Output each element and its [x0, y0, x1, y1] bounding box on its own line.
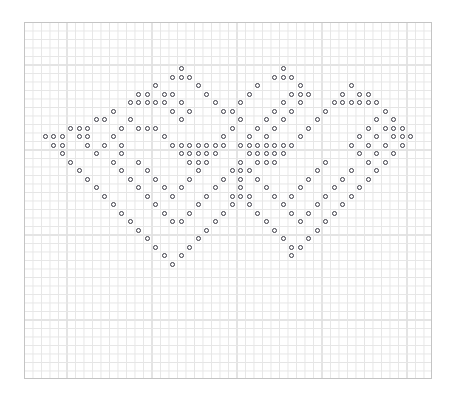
stitch-symbol [221, 109, 226, 114]
stitch-symbol [136, 228, 141, 233]
stitch-symbol [221, 211, 226, 216]
stitch-symbol [400, 134, 405, 139]
stitch-symbol [221, 134, 226, 139]
stitch-symbol [374, 134, 379, 139]
stitch-symbol [383, 126, 388, 131]
stitch-symbol [213, 219, 218, 224]
stitch-symbol [289, 109, 294, 114]
stitch-symbol [357, 134, 362, 139]
stitch-symbol [179, 117, 184, 122]
stitch-symbol-layer [24, 22, 432, 379]
stitch-symbol [281, 236, 286, 241]
stitch-symbol [221, 143, 226, 148]
stitch-symbol [349, 83, 354, 88]
stitch-symbol [213, 100, 218, 105]
stitch-symbol [289, 75, 294, 80]
stitch-symbol [119, 126, 124, 131]
stitch-symbol [238, 160, 243, 165]
stitch-symbol [102, 143, 107, 148]
stitch-symbol [111, 202, 116, 207]
stitch-symbol [255, 160, 260, 165]
stitch-symbol [85, 143, 90, 148]
stitch-symbol [179, 151, 184, 156]
stitch-symbol [383, 160, 388, 165]
stitch-symbol [349, 143, 354, 148]
stitch-symbol [102, 117, 107, 122]
stitch-symbol [332, 185, 337, 190]
stitch-symbol [247, 134, 252, 139]
stitch-symbol [349, 194, 354, 199]
stitch-symbol [238, 185, 243, 190]
stitch-symbol [264, 185, 269, 190]
stitch-symbol [170, 109, 175, 114]
stitch-symbol [153, 177, 158, 182]
stitch-symbol [298, 134, 303, 139]
stitch-symbol [187, 160, 192, 165]
stitch-symbol [187, 211, 192, 216]
stitch-symbol [128, 100, 133, 105]
stitch-symbol [179, 219, 184, 224]
stitch-symbol [77, 168, 82, 173]
stitch-symbol [128, 177, 133, 182]
stitch-symbol [204, 92, 209, 97]
stitch-symbol [255, 143, 260, 148]
stitch-symbol [238, 143, 243, 148]
stitch-symbol [230, 202, 235, 207]
stitch-symbol [187, 143, 192, 148]
stitch-symbol [281, 117, 286, 122]
stitch-symbol [196, 143, 201, 148]
stitch-symbol [204, 143, 209, 148]
stitch-symbol [153, 100, 158, 105]
stitch-symbol [77, 126, 82, 131]
stitch-symbol [247, 202, 252, 207]
stitch-symbol [204, 151, 209, 156]
stitch-symbol [289, 245, 294, 250]
stitch-symbol [145, 168, 150, 173]
stitch-symbol [281, 143, 286, 148]
stitch-symbol [289, 194, 294, 199]
stitch-symbol [179, 143, 184, 148]
stitch-symbol [357, 92, 362, 97]
stitch-symbol [170, 75, 175, 80]
stitch-symbol [264, 219, 269, 224]
stitch-symbol [213, 143, 218, 148]
stitch-symbol [281, 66, 286, 71]
stitch-symbol [136, 100, 141, 105]
stitch-symbol [102, 194, 107, 199]
pattern-chart [0, 0, 456, 407]
stitch-symbol [366, 100, 371, 105]
stitch-symbol [196, 236, 201, 241]
stitch-symbol [306, 236, 311, 241]
stitch-symbol [128, 219, 133, 224]
stitch-symbol [391, 134, 396, 139]
stitch-symbol [272, 75, 277, 80]
stitch-symbol [298, 100, 303, 105]
stitch-symbol [272, 109, 277, 114]
stitch-symbol [153, 202, 158, 207]
stitch-symbol [247, 151, 252, 156]
stitch-symbol [340, 177, 345, 182]
stitch-symbol [94, 185, 99, 190]
stitch-symbol [94, 117, 99, 122]
stitch-symbol [298, 185, 303, 190]
stitch-symbol [153, 126, 158, 131]
stitch-symbol [179, 100, 184, 105]
stitch-symbol [187, 75, 192, 80]
stitch-symbol [196, 151, 201, 156]
stitch-symbol [238, 100, 243, 105]
stitch-symbol [196, 160, 201, 165]
stitch-symbol [366, 92, 371, 97]
stitch-symbol [85, 177, 90, 182]
stitch-symbol [85, 126, 90, 131]
stitch-symbol [170, 92, 175, 97]
stitch-symbol [179, 253, 184, 258]
stitch-symbol [162, 92, 167, 97]
stitch-symbol [119, 211, 124, 216]
stitch-symbol [136, 92, 141, 97]
stitch-symbol [170, 143, 175, 148]
stitch-symbol [289, 143, 294, 148]
stitch-symbol [204, 228, 209, 233]
stitch-symbol [374, 168, 379, 173]
stitch-symbol [264, 151, 269, 156]
stitch-symbol [281, 202, 286, 207]
